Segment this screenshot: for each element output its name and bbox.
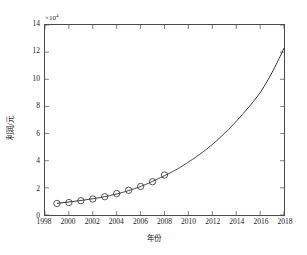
plot-area [44,24,285,216]
x-tick-label: 2012 [205,218,220,226]
x-tick-label: 2008 [157,218,172,226]
x-tick-label: 2002 [85,218,100,226]
y-tick-label: 6 [36,130,40,138]
y-tick-label: 12 [33,48,41,56]
y-tick-label: 14 [33,20,41,28]
y-axis-title: 利润/元 [4,116,15,140]
y-tick-label: 10 [33,75,41,83]
y-axis-exponent-multiplier: ×104 [45,13,58,22]
x-tick-label: 2000 [61,218,76,226]
x-tick-label: 2006 [133,218,148,226]
fitted-curve [57,48,284,203]
y-tick-label: 2 [36,185,40,193]
y-axis-exponent-base: ×10 [45,14,56,22]
x-tick-label: 2016 [253,218,268,226]
x-tick-label: 2018 [278,218,293,226]
axis-tick-marks [45,25,284,215]
x-tick-label: 1998 [37,218,52,226]
series-layer [45,25,284,215]
y-tick-label: 8 [36,103,40,111]
x-tick-label: 2014 [229,218,244,226]
figure-canvas: ×104 02468101214 19982000200220042006200… [0,0,307,255]
x-axis-tick-labels: 1998200020022004200620082010201220142016… [44,218,285,230]
y-axis-exponent-power: 4 [56,13,59,18]
x-axis-title: 年份 [0,232,307,243]
y-tick-label: 4 [36,157,40,165]
x-tick-label: 2004 [109,218,124,226]
x-tick-label: 2010 [181,218,196,226]
